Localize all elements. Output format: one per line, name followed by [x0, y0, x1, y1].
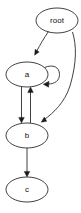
edge-a-self-loop-line [45, 66, 60, 84]
node-b-label: b [25, 131, 30, 140]
node-root[interactable]: root [36, 8, 78, 33]
edge-b-to-a [28, 87, 34, 123]
node-root-label: root [50, 16, 65, 25]
edge-root-to-a-line [37, 32, 49, 52]
edge-root-to-a [35, 32, 49, 56]
edge-b-to-a-arrowhead [28, 87, 34, 93]
edge-a-to-b [19, 87, 25, 123]
edge-b-to-c-arrowhead [24, 171, 30, 177]
edge-root-to-b-arrowhead [41, 117, 47, 122]
edge-root-to-b [41, 32, 75, 122]
node-a[interactable]: a [6, 62, 48, 87]
node-a-label: a [25, 70, 30, 79]
edge-a-to-b-arrowhead [19, 117, 25, 123]
node-c-label: c [25, 185, 29, 194]
graph-canvas: root a b c [0, 0, 81, 213]
node-b[interactable]: b [6, 123, 48, 148]
edge-b-to-c [24, 148, 30, 177]
edge-root-to-b-line [45, 32, 76, 120]
node-c[interactable]: c [6, 177, 48, 202]
